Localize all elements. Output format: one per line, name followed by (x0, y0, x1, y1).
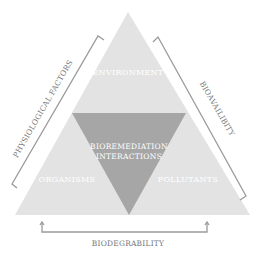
label-interactions: INTERACTIONS (96, 152, 162, 161)
label-pollutants: POLLUTANTS (158, 175, 218, 184)
label-environment: ENVIRONMENT (92, 68, 163, 77)
label-bioavailability: BIOAVAILIBITY (198, 80, 237, 139)
label-biodegradability: BIODEGRABILITY (92, 239, 165, 248)
label-organisms: ORGANISMS (39, 175, 96, 184)
bioremediation-triangle-diagram: ENVIRONMENT BIOREMEDIATION INTERACTIONS … (0, 0, 255, 253)
bottom-bracket (40, 222, 209, 232)
label-bioremediation: BIOREMEDIATION (90, 142, 168, 151)
diagram-svg: ENVIRONMENT BIOREMEDIATION INTERACTIONS … (0, 0, 255, 253)
